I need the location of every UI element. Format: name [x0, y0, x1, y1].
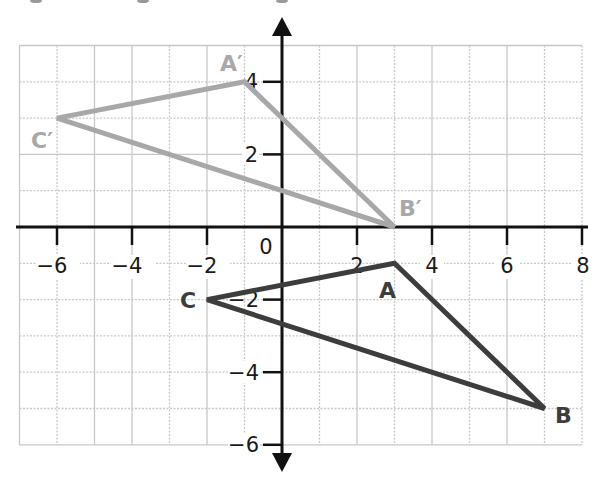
point-label-c: C [180, 288, 196, 313]
point-label-a: A [379, 278, 396, 303]
y-tick-label: −6 [228, 433, 259, 457]
point-label-b-prime: B′ [399, 196, 422, 221]
x-tick-label: 2 [350, 254, 363, 278]
x-tick-label: 8 [576, 254, 589, 278]
grid [20, 46, 583, 446]
x-tick-label: −4 [112, 254, 143, 278]
y-tick-label: 2 [245, 143, 258, 167]
x-tick-label: −2 [187, 254, 218, 278]
y-axis-up-arrow-icon [272, 17, 292, 36]
cropped-text-fragments [30, 0, 288, 3]
point-label-a-prime: A′ [220, 51, 243, 76]
x-tick-label: 6 [500, 254, 513, 278]
coordinate-plane: −6 −4 −2 2 4 6 8 0 4 2 −2 −4 −6 [0, 0, 604, 480]
x-tick-labels: −6 −4 −2 2 4 6 8 [36, 254, 595, 279]
x-tick-label: 4 [425, 254, 438, 278]
y-axis-down-arrow-icon [272, 453, 292, 472]
point-label-b: B [555, 403, 572, 428]
origin-label: 0 [259, 235, 272, 259]
x-tick-label: −6 [37, 254, 68, 278]
coordinate-plane-figure: −6 −4 −2 2 4 6 8 0 4 2 −2 −4 −6 [0, 0, 604, 480]
y-tick-label: −4 [228, 361, 259, 385]
point-label-c-prime: C′ [31, 128, 53, 153]
